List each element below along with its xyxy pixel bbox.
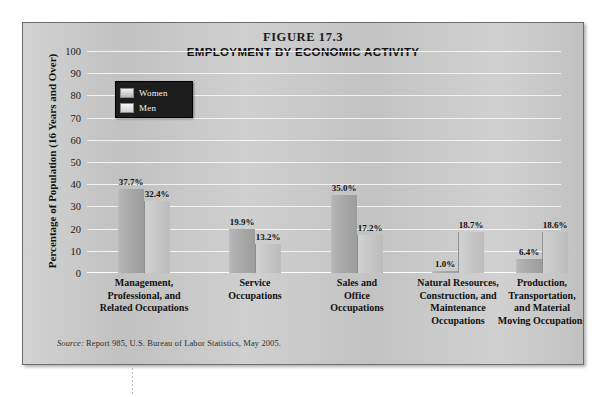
bar-fill-men	[144, 201, 170, 273]
bar-group: 1.0%18.7%	[432, 232, 484, 274]
legend-label-men: Men	[139, 103, 156, 113]
y-tick-label: 80	[71, 90, 82, 101]
y-axis-title: Percentage of Population (16 Years and O…	[46, 36, 58, 286]
bar-women[interactable]: 1.0%	[432, 271, 458, 273]
category-label-line: Related Occupations	[82, 302, 206, 315]
bar-fill-women	[432, 271, 458, 273]
bar-value-label: 35.0%	[332, 183, 357, 193]
figure-number: FIGURE 17.3	[23, 30, 583, 45]
y-tick-label: 90	[71, 68, 82, 79]
bar-women[interactable]: 37.7%	[118, 189, 144, 273]
bar-fill-women	[516, 259, 542, 273]
bar-value-label: 17.2%	[358, 223, 383, 233]
bar-value-label: 1.0%	[435, 259, 455, 269]
category-label-line: Management,	[82, 277, 206, 290]
source-note: Source: Report 985, U.S. Bureau of Labor…	[57, 338, 281, 348]
bar-value-label: 13.2%	[256, 232, 281, 242]
bar-group: 6.4%18.6%	[516, 232, 568, 273]
y-tick-label: 50	[71, 157, 82, 168]
y-tick-label: 100	[65, 46, 81, 57]
bar-fill-men	[255, 244, 281, 273]
bar-value-label: 18.6%	[543, 220, 568, 230]
bar-men[interactable]: 18.7%	[458, 232, 484, 274]
category-label-line: Production,	[480, 277, 584, 290]
bar-men[interactable]: 13.2%	[255, 244, 281, 273]
y-tick-label: 10	[71, 245, 82, 256]
legend-swatch-men-icon	[120, 103, 134, 113]
category-label: Production,Transportation,and MaterialMo…	[480, 277, 584, 327]
gridline	[87, 51, 561, 52]
bar-group: 35.0%17.2%	[331, 195, 383, 273]
gridline	[87, 140, 561, 141]
legend-item-women: Women	[120, 85, 188, 100]
gridline	[87, 184, 561, 185]
page-fold-marker	[132, 368, 133, 396]
legend-swatch-women-icon	[120, 88, 134, 98]
bar-women[interactable]: 6.4%	[516, 259, 542, 273]
bar-group: 19.9%13.2%	[229, 229, 281, 273]
bar-value-label: 37.7%	[119, 177, 144, 187]
gridline	[87, 162, 561, 163]
gridline	[87, 73, 561, 74]
bar-men[interactable]: 18.6%	[542, 232, 568, 273]
bar-fill-men	[357, 235, 383, 273]
y-tick-label: 70	[71, 112, 82, 123]
category-label: Management,Professional, andRelated Occu…	[82, 277, 206, 315]
source-text: Report 985, U.S. Bureau of Labor Statist…	[84, 338, 281, 348]
legend-label-women: Women	[139, 88, 168, 98]
y-tick-label: 60	[71, 134, 82, 145]
category-label-line: Transportation,	[480, 290, 584, 303]
legend-item-men: Men	[120, 100, 188, 115]
bar-men[interactable]: 32.4%	[144, 201, 170, 273]
bar-value-label: 6.4%	[519, 247, 539, 257]
category-label-line: and Material	[480, 302, 584, 315]
category-label-line: Moving Occupations	[480, 315, 584, 328]
bar-fill-women	[331, 195, 357, 273]
y-tick-label: 0	[76, 268, 81, 279]
bar-women[interactable]: 35.0%	[331, 195, 357, 273]
bar-fill-women	[229, 229, 255, 273]
y-tick-label: 20	[71, 223, 82, 234]
y-tick-label: 40	[71, 179, 82, 190]
bar-women[interactable]: 19.9%	[229, 229, 255, 273]
figure-panel: FIGURE 17.3 EMPLOYMENT BY ECONOMIC ACTIV…	[22, 22, 584, 365]
bar-men[interactable]: 17.2%	[357, 235, 383, 273]
plot-area: 1009080706050403020100 Women Men 37.7%32…	[87, 51, 561, 273]
chart-legend: Women Men	[115, 81, 193, 118]
bar-value-label: 32.4%	[145, 189, 170, 199]
bar-value-label: 19.9%	[230, 217, 255, 227]
bar-fill-women	[118, 189, 144, 273]
bar-fill-men	[458, 232, 484, 274]
category-label-line: Professional, and	[82, 290, 206, 303]
source-label: Source:	[57, 338, 84, 348]
bar-group: 37.7%32.4%	[118, 189, 170, 273]
y-tick-label: 30	[71, 201, 82, 212]
bar-fill-men	[542, 232, 568, 273]
bar-value-label: 18.7%	[459, 220, 484, 230]
